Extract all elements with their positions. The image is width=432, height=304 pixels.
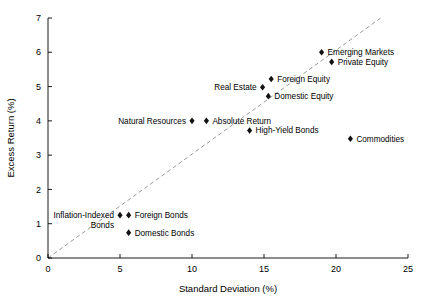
y-tick-label: 7 — [36, 13, 41, 23]
data-marker — [348, 135, 353, 142]
data-point-label: Foreign Bonds — [135, 211, 188, 220]
data-point-label: Private Equity — [338, 58, 389, 67]
data-point-label: Domestic Bonds — [135, 229, 195, 238]
y-axis-title: Excess Return (%) — [5, 98, 16, 177]
scatter-chart: 051015202501234567 Emerging MarketsPriva… — [0, 0, 432, 304]
x-tick-label: 20 — [331, 264, 341, 274]
data-marker — [117, 212, 122, 219]
data-marker — [189, 118, 194, 125]
x-axis-title: Standard Deviation (%) — [179, 283, 277, 294]
data-point-label: Natural Resources — [118, 117, 186, 126]
data-marker — [126, 212, 131, 219]
x-tick-label: 10 — [187, 264, 197, 274]
y-tick-label: 3 — [36, 150, 41, 160]
data-point-label: Absolute Return — [212, 117, 271, 126]
data-marker — [126, 229, 131, 236]
plot-area: 051015202501234567 Emerging MarketsPriva… — [0, 0, 432, 304]
data-point-label: Emerging Markets — [328, 48, 394, 57]
y-tick-label: 2 — [36, 185, 41, 195]
data-point-label: Commodities — [356, 135, 404, 144]
x-tick-label: 5 — [117, 264, 122, 274]
x-tick-label: 15 — [259, 264, 269, 274]
x-tick-label: 25 — [403, 264, 413, 274]
data-point-label: High-Yield Bonds — [256, 126, 319, 135]
data-marker — [319, 49, 324, 56]
data-marker — [269, 76, 274, 83]
data-marker — [260, 84, 265, 91]
data-label-layer: Emerging MarketsPrivate EquityForeign Eq… — [53, 48, 404, 237]
data-point-label: Domestic Equity — [274, 92, 334, 101]
data-marker — [266, 93, 271, 100]
data-point-label: Foreign Equity — [277, 75, 331, 84]
y-tick-label: 0 — [36, 253, 41, 263]
y-tick-label: 1 — [36, 219, 41, 229]
data-marker — [204, 118, 209, 125]
data-point-label: Real Estate — [214, 83, 257, 92]
x-tick-label: 0 — [45, 264, 50, 274]
y-tick-label: 5 — [36, 82, 41, 92]
y-tick-label: 6 — [36, 47, 41, 57]
data-point-label-multiline: Inflation-IndexedBonds — [53, 211, 114, 230]
data-marker — [329, 59, 334, 66]
y-tick-label: 4 — [36, 116, 41, 126]
data-marker — [247, 127, 252, 134]
